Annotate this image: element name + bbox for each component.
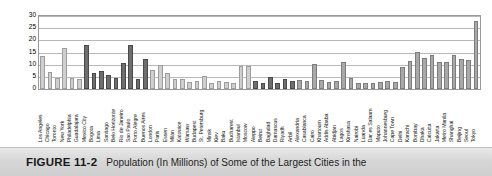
bar-slot	[450, 16, 457, 89]
y-tick-label: 20	[14, 36, 36, 43]
x-label: Luanda	[361, 125, 366, 142]
bar	[452, 55, 457, 89]
y-tick-label: 5	[14, 73, 36, 80]
bar-slot	[267, 16, 274, 89]
bar	[92, 73, 97, 89]
bar	[180, 79, 185, 89]
bar	[378, 82, 383, 89]
bar-slot	[39, 16, 46, 89]
figure-number: FIGURE 11-2	[26, 156, 97, 168]
bar	[106, 75, 111, 89]
bar	[195, 81, 200, 89]
x-label: Beijing	[456, 127, 461, 142]
bar-slot	[472, 16, 479, 89]
bar-slot	[201, 16, 208, 89]
x-label: Addis Ababa	[324, 113, 329, 142]
bar	[393, 82, 398, 89]
y-tick-label: 15	[14, 49, 36, 56]
x-label: Toronto	[52, 125, 57, 142]
bar	[253, 81, 258, 89]
x-label: Porto Alegre	[133, 114, 138, 142]
x-label: Damascus	[273, 118, 278, 142]
x-label: Baku	[221, 130, 226, 142]
bar-slot	[120, 16, 127, 89]
x-label: Kiev	[214, 132, 219, 142]
x-label: Cairo	[309, 130, 314, 142]
x-label: Paris	[155, 130, 160, 142]
bar-slot	[318, 16, 325, 89]
bar-slot	[46, 16, 53, 89]
y-axis-tick-labels: 051015202530	[14, 15, 36, 90]
x-label: Alexandria	[295, 118, 300, 142]
bar-slot	[127, 16, 134, 89]
bar	[415, 52, 420, 89]
bar-chart: 051015202530 Los AngelesChicagoTorontoNe…	[0, 0, 492, 143]
x-label: Maputo	[376, 125, 381, 142]
bar	[55, 78, 60, 89]
bar-slot	[465, 16, 472, 89]
bar	[48, 72, 53, 89]
bar-slot	[112, 16, 119, 89]
figure-container: 051015202530 Los AngelesChicagoTorontoNe…	[0, 0, 492, 176]
figure-caption-text: Population (In Millions) of Some of the …	[106, 157, 366, 168]
bar	[77, 79, 82, 89]
x-label: Tokyo	[471, 129, 476, 142]
bar-slot	[392, 16, 399, 89]
bar	[437, 62, 442, 89]
x-label: Philadelphia	[67, 114, 72, 142]
figure-caption-band: FIGURE 11-2 Population (In Millions) of …	[0, 147, 492, 176]
bar	[70, 78, 75, 89]
bar	[290, 81, 295, 89]
bar-slot	[61, 16, 68, 89]
x-axis-category-labels: Los AngelesChicagoTorontoNew YorkPhilade…	[39, 91, 480, 143]
bar	[239, 66, 244, 89]
bar	[84, 45, 89, 89]
bar	[356, 83, 361, 89]
x-label: Los Angeles	[37, 114, 42, 142]
bar	[363, 83, 368, 89]
bar-slot	[369, 16, 376, 89]
bar-slot	[399, 16, 406, 89]
bar-slot	[208, 16, 215, 89]
bar	[422, 58, 427, 89]
y-tick-label: 25	[14, 24, 36, 31]
x-label: Baghdad	[265, 122, 270, 142]
x-label: Arbil	[287, 132, 292, 142]
x-label: Cape Town	[390, 117, 395, 142]
bar	[246, 66, 251, 89]
bar	[334, 81, 339, 89]
x-label: Mexico City	[82, 116, 87, 142]
x-label: Belo Horizonte	[111, 109, 116, 142]
bar	[158, 65, 163, 89]
bar-slot	[443, 16, 450, 89]
bar	[231, 83, 236, 89]
bar	[136, 79, 141, 89]
bar	[187, 82, 192, 89]
bar-slot	[193, 16, 200, 89]
figure-caption: FIGURE 11-2 Population (In Millions) of …	[0, 156, 366, 168]
bar-slot	[98, 16, 105, 89]
x-label: Essen	[162, 128, 167, 142]
bar-slot	[311, 16, 318, 89]
bar-slot	[157, 16, 164, 89]
bar-slot	[340, 16, 347, 89]
x-label: Abidjan	[331, 125, 336, 142]
x-label: Moscow	[243, 123, 248, 142]
x-label: Casablanca	[302, 115, 307, 142]
bar	[165, 73, 170, 89]
bar	[99, 71, 104, 89]
x-label: Minsk	[207, 129, 212, 142]
x-label: Beirut	[258, 129, 263, 142]
bar-slot	[377, 16, 384, 89]
bar	[40, 56, 45, 89]
bar	[217, 81, 222, 89]
bar	[268, 77, 273, 89]
x-label: Milan	[170, 130, 175, 142]
x-label: Istanbul	[236, 124, 241, 142]
bar-slot	[303, 16, 310, 89]
bar-slot	[186, 16, 193, 89]
x-label: Riyadh	[280, 126, 285, 142]
x-label: Sao Paulo	[126, 119, 131, 143]
bar-slot	[83, 16, 90, 89]
x-label: Shanghai	[449, 120, 454, 142]
